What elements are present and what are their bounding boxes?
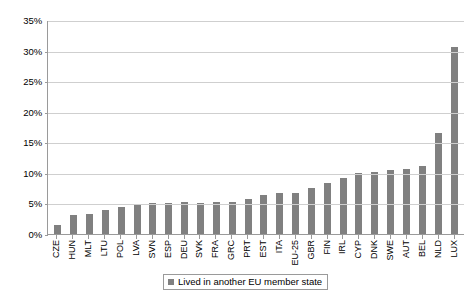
x-tick-mark <box>199 235 200 239</box>
gridline <box>48 204 464 205</box>
x-label-slot: MLT <box>81 240 97 270</box>
bar[interactable] <box>70 215 77 234</box>
bar-slot <box>50 21 66 234</box>
x-tick-slot <box>256 235 272 239</box>
x-tick-mark <box>152 235 153 239</box>
x-tick-mark <box>56 235 57 239</box>
x-tick-slot <box>446 235 462 239</box>
bar[interactable] <box>435 133 442 234</box>
bar-slot <box>193 21 209 234</box>
x-tick-mark <box>406 235 407 239</box>
bar[interactable] <box>308 188 315 234</box>
x-tick-label: FIN <box>322 240 333 255</box>
x-label-slot: EST <box>256 240 272 270</box>
y-tick-label: 0% <box>0 230 42 240</box>
x-label-slot: SVK <box>192 240 208 270</box>
bar[interactable] <box>181 202 188 234</box>
x-tick-mark <box>374 235 375 239</box>
gridline <box>48 82 464 83</box>
bar[interactable] <box>134 205 141 234</box>
x-tick-label: LVA <box>131 240 142 256</box>
x-label-slot: BEL <box>414 240 430 270</box>
x-tick-label: ESP <box>163 240 174 258</box>
x-label-slot: DNK <box>367 240 383 270</box>
x-tick-mark <box>454 235 455 239</box>
bar[interactable] <box>324 183 331 234</box>
x-tick-slot <box>49 235 65 239</box>
gridline <box>48 143 464 144</box>
x-label-slot: GBR <box>303 240 319 270</box>
y-tick-label: 30% <box>0 47 42 57</box>
x-label-slot: LVA <box>128 240 144 270</box>
x-label-slot: ESP <box>160 240 176 270</box>
bar-chart: 35%30%25%20%15%10%5%0% CZEHUNMLTLTUPOLLV… <box>0 0 473 298</box>
x-tick-slot <box>399 235 415 239</box>
x-tick-label: IRL <box>337 240 348 254</box>
x-label-slot: GRC <box>224 240 240 270</box>
x-tick-mark <box>263 235 264 239</box>
x-axis-ticks <box>47 235 464 239</box>
x-tick-mark <box>136 235 137 239</box>
bar-slot <box>129 21 145 234</box>
bar-slot <box>177 21 193 234</box>
x-label-slot: DEU <box>176 240 192 270</box>
bar-slot <box>335 21 351 234</box>
bar-slot <box>272 21 288 234</box>
bar[interactable] <box>403 169 410 234</box>
bar[interactable] <box>54 225 61 234</box>
x-label-slot: CZE <box>49 240 65 270</box>
gridline <box>48 113 464 114</box>
x-tick-label: AUT <box>401 240 412 258</box>
x-tick-mark <box>184 235 185 239</box>
x-label-slot: HUN <box>65 240 81 270</box>
plot-area <box>47 21 464 235</box>
bar[interactable] <box>260 195 267 234</box>
bar-slot <box>208 21 224 234</box>
x-tick-mark <box>295 235 296 239</box>
x-tick-mark <box>390 235 391 239</box>
bar-slot <box>414 21 430 234</box>
x-tick-mark <box>358 235 359 239</box>
y-tick-mark <box>45 143 48 144</box>
y-tick-mark <box>45 82 48 83</box>
bar-slot <box>319 21 335 234</box>
bar[interactable] <box>292 193 299 234</box>
bar[interactable] <box>276 193 283 234</box>
bar[interactable] <box>340 178 347 234</box>
x-tick-mark <box>88 235 89 239</box>
bar[interactable] <box>387 170 394 234</box>
bar[interactable] <box>86 214 93 234</box>
bar[interactable] <box>419 166 426 234</box>
legend-entry-label: Lived in another EU member state <box>178 276 322 287</box>
bar[interactable] <box>371 172 378 234</box>
y-tick-label: 5% <box>0 199 42 209</box>
bar[interactable] <box>213 202 220 234</box>
x-tick-label: NLD <box>433 240 444 258</box>
x-tick-mark <box>279 235 280 239</box>
bar[interactable] <box>118 207 125 234</box>
bar-slot <box>351 21 367 234</box>
bar[interactable] <box>165 203 172 234</box>
y-tick-label: 10% <box>0 169 42 179</box>
y-tick-mark <box>45 52 48 53</box>
bar[interactable] <box>102 210 109 234</box>
bar-slot <box>430 21 446 234</box>
x-tick-label: SVK <box>194 240 205 258</box>
x-tick-label: DNK <box>369 240 380 259</box>
y-tick-label: 35% <box>0 16 42 26</box>
x-tick-label: SVN <box>147 240 158 259</box>
x-tick-slot <box>113 235 129 239</box>
y-tick-mark <box>45 174 48 175</box>
x-tick-label: LTU <box>99 240 110 256</box>
x-tick-mark <box>104 235 105 239</box>
x-tick-label: POL <box>115 240 126 258</box>
y-axis: 35%30%25%20%15%10%5%0% <box>0 0 42 260</box>
x-tick-mark <box>311 235 312 239</box>
bar[interactable] <box>197 203 204 234</box>
bar[interactable] <box>451 47 458 234</box>
legend-swatch-icon <box>168 279 174 285</box>
bar[interactable] <box>149 203 156 234</box>
x-tick-slot <box>176 235 192 239</box>
bar[interactable] <box>229 202 236 234</box>
bar-slot <box>161 21 177 234</box>
